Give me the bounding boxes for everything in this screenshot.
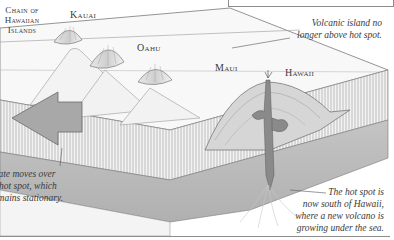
bottom-rule [0,236,390,237]
chain-label-line-3: Islands [0,25,50,35]
caption-line: The hot spot is [295,186,384,198]
island-label-hawaii: Hawaii [285,67,314,78]
caption-line: hot spot, which [0,180,63,192]
chain-label-line-1: Chain of [0,5,50,15]
island-label-maui: Maui [215,62,238,73]
island-label-kauai: Kauai [70,9,96,20]
caption-line: Volcanic island no [297,17,382,29]
caption-line: remains stationary. [0,192,63,204]
caption-volcanic-island: Volcanic island no longer above hot spot… [297,17,382,41]
caption-plate-moves: Plate moves over hot spot, which remains… [0,168,63,204]
caption-line: where a new volcano is [295,210,384,222]
island-label-oahu: Oahu [137,42,161,53]
caption-line: now south of Hawaii, [295,198,384,210]
caption-line: longer above hot spot. [297,29,382,41]
caption-line: growing under the sea. [295,222,384,234]
caption-hot-spot: The hot spot is now south of Hawaii, whe… [295,186,384,234]
chain-label: Chain of Hawaiian Islands [0,5,50,35]
caption-line: Plate moves over [0,168,63,180]
chain-label-line-2: Hawaiian [0,15,50,25]
